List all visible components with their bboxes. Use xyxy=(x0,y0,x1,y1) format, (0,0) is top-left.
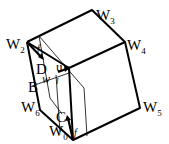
edge-front-w4 xyxy=(69,42,125,68)
label-w4: W4 xyxy=(127,37,146,56)
label-w: w xyxy=(42,72,50,86)
label-w2: W2 xyxy=(6,36,25,55)
inner-right xyxy=(84,88,87,136)
label-f-bottom: f xyxy=(74,127,78,138)
label-w6: W6 xyxy=(21,99,40,118)
label-w0: W0 xyxy=(49,123,68,142)
label-b: B xyxy=(28,79,38,95)
label-c: C xyxy=(56,109,66,125)
label-l: l xyxy=(56,76,59,86)
diagram-canvas: W3 W4 W2 W5 W6 W0 B D C u w f f l xyxy=(0,0,169,144)
label-w5: W5 xyxy=(143,99,162,118)
polyhedron-diagram: W3 W4 W2 W5 W6 W0 B D C u w f f l xyxy=(0,0,169,144)
label-u: u xyxy=(56,59,63,74)
